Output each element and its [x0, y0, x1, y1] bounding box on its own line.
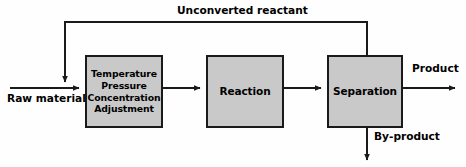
- process-box-reaction-label: Reaction: [219, 85, 270, 98]
- process-box-adjustment[interactable]: Temperature Pressure Concentration Adjus…: [85, 55, 163, 128]
- process-box-adjustment-line-2: Pressure: [101, 80, 146, 92]
- process-box-separation-label: Separation: [333, 85, 397, 98]
- stream-label-raw-material: Raw material: [7, 92, 86, 104]
- process-box-separation[interactable]: Separation: [327, 55, 403, 128]
- stream-label-byproduct: By-product: [374, 130, 440, 142]
- process-box-reaction[interactable]: Reaction: [206, 55, 284, 128]
- process-box-adjustment-line-4: Adjustment: [94, 103, 154, 115]
- stream-label-unconverted-reactant: Unconverted reactant: [177, 4, 308, 16]
- process-box-adjustment-line-3: Concentration: [88, 92, 161, 104]
- process-box-adjustment-line-1: Temperature: [91, 68, 157, 80]
- stream-label-product: Product: [412, 62, 459, 74]
- process-flow-diagram: Temperature Pressure Concentration Adjus…: [0, 0, 466, 167]
